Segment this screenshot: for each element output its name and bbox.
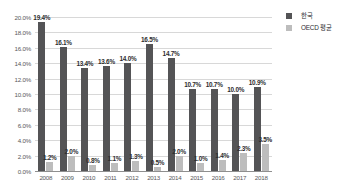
bar-korea[interactable]: 19.4% (38, 22, 45, 171)
legend-label: OECD 평균 (301, 23, 332, 32)
bar-oecd[interactable]: 0.5% (154, 167, 161, 171)
bar-oecd[interactable]: 2.0% (176, 156, 183, 171)
bar-oecd[interactable]: 2.0% (68, 156, 75, 171)
bar-oecd[interactable]: 1.2% (46, 162, 53, 171)
x-tick-label: 2013 (143, 174, 165, 190)
y-axis: 20.0%18.0%16.0%14.0%12.0%10.0%8.0%6.0%4.… (0, 0, 33, 194)
bar-value-label: 1.1% (108, 155, 122, 162)
x-tick-label: 2008 (35, 174, 57, 190)
bar-value-label: 10.0% (227, 86, 244, 93)
bar-value-label: 2.0% (172, 148, 186, 155)
bar-korea[interactable]: 10.0% (232, 94, 239, 171)
bar-group: 10.0%2.3% (229, 17, 251, 171)
bar-group: 14.0%1.3% (121, 17, 143, 171)
bar-group: 16.1%2.0% (57, 17, 79, 171)
x-tick-label: 2014 (164, 174, 186, 190)
axis-baseline (35, 171, 272, 172)
bar-group: 13.4%0.8% (78, 17, 100, 171)
chart-legend: 한국OECD 평균 (286, 11, 346, 35)
bars-layer: 19.4%1.2%16.1%2.0%13.4%0.8%13.6%1.1%14.0… (35, 17, 272, 171)
x-tick-label: 2016 (207, 174, 229, 190)
bar-korea[interactable]: 16.5% (146, 44, 153, 171)
x-tick-label: 2017 (229, 174, 251, 190)
x-tick-label: 2018 (250, 174, 272, 190)
bar-value-label: 1.4% (215, 152, 229, 159)
y-tick-label: 2.0% (18, 152, 31, 159)
bar-korea[interactable]: 10.9% (254, 87, 261, 171)
y-tick-label: 12.0% (14, 75, 31, 82)
plot-area: 19.4%1.2%16.1%2.0%13.4%0.8%13.6%1.1%14.0… (35, 17, 272, 171)
bar-value-label: 1.2% (43, 154, 57, 161)
y-tick-label: 6.0% (18, 121, 31, 128)
legend-swatch-icon (286, 13, 292, 19)
y-tick-label: 18.0% (14, 29, 31, 36)
bar-group: 14.7%2.0% (164, 17, 186, 171)
bar-value-label: 16.1% (55, 39, 72, 46)
bar-group: 10.7%1.4% (207, 17, 229, 171)
bar-korea[interactable]: 13.4% (81, 68, 88, 171)
y-tick-label: 4.0% (18, 137, 31, 144)
bar-value-label: 1.0% (194, 155, 208, 162)
x-tick-label: 2015 (186, 174, 208, 190)
bar-chart: 20.0%18.0%16.0%14.0%12.0%10.0%8.0%6.0%4.… (0, 0, 348, 194)
bar-value-label: 0.5% (151, 159, 165, 166)
y-tick-label: 10.0% (14, 91, 31, 98)
bar-value-label: 14.0% (120, 55, 137, 62)
bar-value-label: 3.5% (258, 136, 272, 143)
bar-oecd[interactable]: 2.3% (240, 153, 247, 171)
x-tick-label: 2010 (78, 174, 100, 190)
bar-oecd[interactable]: 1.0% (197, 163, 204, 171)
bar-group: 10.9%3.5% (250, 17, 272, 171)
bar-value-label: 10.7% (206, 81, 223, 88)
bar-value-label: 16.5% (141, 36, 158, 43)
legend-label: 한국 (301, 11, 313, 20)
bar-value-label: 13.6% (98, 58, 115, 65)
bar-group: 19.4%1.2% (35, 17, 57, 171)
y-tick-label: 14.0% (14, 60, 31, 67)
bar-group: 10.7%1.0% (186, 17, 208, 171)
bar-oecd[interactable]: 1.4% (219, 160, 226, 171)
bar-value-label: 0.8% (86, 157, 100, 164)
legend-entry[interactable]: OECD 평균 (286, 23, 346, 32)
bar-value-label: 2.3% (237, 145, 251, 152)
bar-oecd[interactable]: 1.1% (111, 163, 118, 171)
bar-value-label: 10.9% (249, 79, 266, 86)
x-tick-label: 2011 (100, 174, 122, 190)
bar-oecd[interactable]: 0.8% (89, 165, 96, 171)
bar-value-label: 1.3% (129, 153, 143, 160)
legend-entry[interactable]: 한국 (286, 11, 346, 20)
x-axis: 2008200920102011201220132014201520162017… (35, 174, 272, 190)
y-tick-label: 20.0% (14, 14, 31, 21)
bar-value-label: 2.0% (65, 148, 79, 155)
legend-swatch-icon (286, 25, 292, 31)
y-tick-label: 16.0% (14, 44, 31, 51)
bar-oecd[interactable]: 1.3% (132, 161, 139, 171)
bar-value-label: 13.4% (76, 60, 93, 67)
y-tick-label: 0.0% (18, 168, 31, 175)
bar-oecd[interactable]: 3.5% (262, 144, 269, 171)
bar-value-label: 14.7% (163, 50, 180, 57)
x-tick-label: 2009 (57, 174, 79, 190)
bar-group: 13.6%1.1% (100, 17, 122, 171)
y-tick-label: 8.0% (18, 106, 31, 113)
bar-value-label: 19.4% (33, 14, 50, 21)
bar-group: 16.5%0.5% (143, 17, 165, 171)
x-tick-label: 2012 (121, 174, 143, 190)
bar-value-label: 10.7% (184, 81, 201, 88)
